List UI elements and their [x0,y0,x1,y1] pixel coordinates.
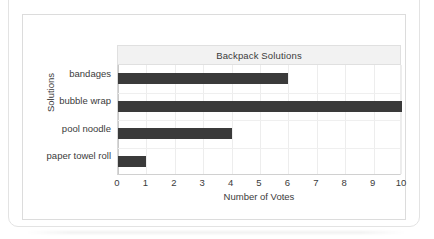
chart-figure-frame: Backpack Solutions Solutions bandages bu… [22,14,406,220]
x-tick-label: 0 [105,177,129,188]
x-tick-label: 9 [361,177,385,188]
x-tick-label: 7 [304,177,328,188]
bar-bubble-wrap [118,101,402,112]
x-axis-title: Number of Votes [117,191,401,202]
x-tick-label: 8 [332,177,356,188]
y-tick-label: bandages [0,68,111,79]
x-tick-label: 4 [219,177,243,188]
bar-pool-noodle [118,128,232,139]
y-tick-label: paper towel roll [0,150,111,161]
y-tick-label: pool noodle [0,123,111,134]
worksheet-page: Backpack Solutions Solutions bandages bu… [0,0,434,239]
plot-area [117,65,401,175]
bar-paper-towel-roll [118,156,146,167]
gridline-row-3 [118,148,400,149]
gridline-row-2 [118,120,400,121]
chart-title-band: Backpack Solutions [117,45,401,65]
y-tick-label: bubble wrap [0,95,111,106]
gridline-x-10 [401,65,402,174]
x-tick-label: 10 [389,177,413,188]
x-tick-label: 3 [190,177,214,188]
chart-title: Backpack Solutions [216,50,302,61]
x-tick-label: 6 [275,177,299,188]
x-tick-label: 1 [133,177,157,188]
page-shadow [26,231,406,234]
x-tick-label: 5 [247,177,271,188]
bar-bandages [118,73,288,84]
x-tick-label: 2 [162,177,186,188]
gridline-row-1 [118,93,400,94]
